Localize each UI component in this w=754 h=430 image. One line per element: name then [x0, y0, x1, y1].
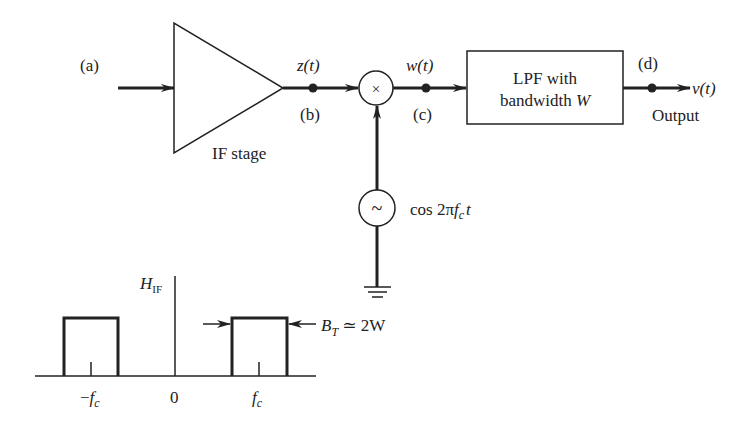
node-c-label: (c): [413, 105, 432, 124]
if-amplifier-triangle: [174, 23, 283, 153]
sine-wave-icon: ~: [372, 197, 383, 219]
multiplier-icon: ×: [372, 81, 380, 97]
tick-zero: 0: [170, 388, 179, 407]
tick-pos-fc: fc: [252, 388, 263, 410]
bandwidth-label: BT ≃ 2W: [321, 316, 386, 339]
output-signal: v(t): [692, 79, 716, 98]
node-c-signal: w(t): [406, 56, 434, 75]
tick-neg-fc: −fc: [80, 388, 100, 410]
lpf-label-line2: bandwidth W: [500, 91, 592, 110]
h-if-label: HIF: [139, 274, 162, 295]
node-d-label: (d): [638, 54, 658, 73]
node-c-dot: [422, 84, 431, 93]
node-b-label: (b): [300, 105, 320, 124]
if-stage-label: IF stage: [212, 144, 266, 163]
ground-icon: [364, 287, 391, 297]
node-d-dot: [648, 84, 657, 93]
oscillator-signal: cos 2πfct: [410, 200, 472, 222]
receiver-block-diagram: (a) IF stage z(t) (b) × w(t) (c) LPF wit…: [0, 0, 754, 430]
lpf-label-line1: LPF with: [513, 69, 577, 88]
input-label: (a): [80, 56, 99, 75]
node-b-dot: [309, 84, 318, 93]
output-label: Output: [652, 106, 700, 125]
node-b-signal: z(t): [296, 56, 320, 75]
if-frequency-response: HIF BT ≃ 2W −fc 0 fc: [35, 274, 386, 410]
